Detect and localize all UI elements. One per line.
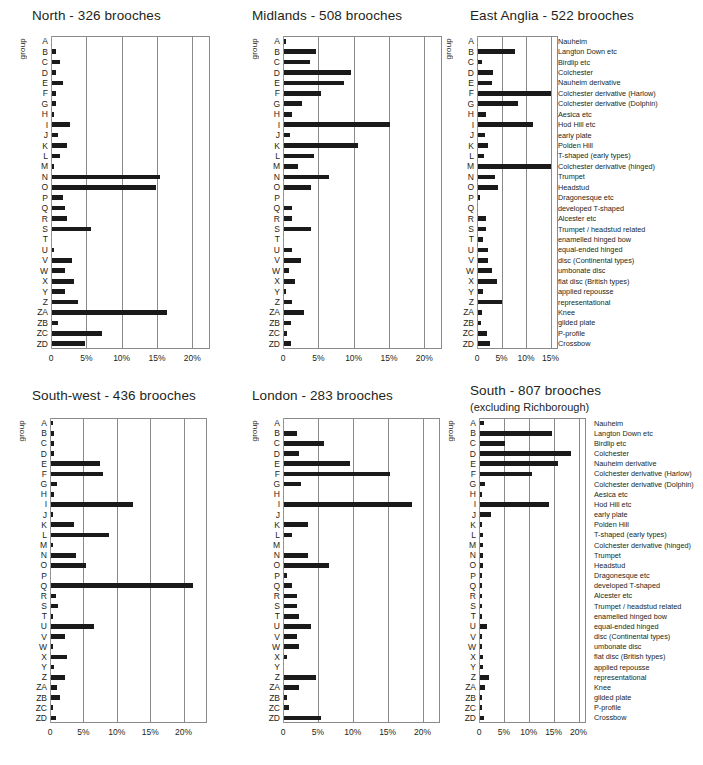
bar <box>52 258 72 263</box>
group-label: P <box>25 572 47 581</box>
key-label: Colchester derivative (Harlow) <box>558 90 656 97</box>
bar <box>284 604 297 609</box>
group-label: I <box>26 121 48 130</box>
key-label: flat disc (British types) <box>594 653 665 660</box>
group-label: B <box>258 429 280 438</box>
bar <box>478 341 490 346</box>
gridline-20% <box>184 418 185 723</box>
key-label: Aesica etc <box>594 491 628 498</box>
bar <box>52 70 56 75</box>
bar <box>51 451 54 456</box>
group-label: R <box>25 592 47 601</box>
group-label: ZC <box>452 329 474 338</box>
group-label: ZC <box>258 704 280 713</box>
group-label: F <box>25 470 47 479</box>
bar <box>478 81 492 86</box>
bar <box>480 655 483 660</box>
group-label: O <box>258 183 280 192</box>
bar <box>284 451 299 456</box>
group-label: K <box>454 521 476 530</box>
bar <box>284 206 292 211</box>
bar <box>284 101 302 106</box>
bar <box>284 70 351 75</box>
bar <box>52 101 56 106</box>
x-tick-label: 10% <box>105 353 139 363</box>
bar <box>284 675 316 680</box>
bar <box>480 573 482 578</box>
group-label: X <box>454 653 476 662</box>
key-label: Birdlip etc <box>594 440 626 447</box>
group-label: Q <box>258 204 280 213</box>
bar <box>478 289 483 294</box>
x-tick-label: 5% <box>301 353 335 363</box>
key-label: gilded plate <box>594 694 631 701</box>
group-label: J <box>454 511 476 520</box>
bar <box>284 185 311 190</box>
gridline-10% <box>117 418 118 723</box>
group-label: H <box>258 490 280 499</box>
bar <box>51 421 53 426</box>
group-label: A <box>25 419 47 428</box>
key-label: Colchester derivative (Harlow) <box>594 470 692 477</box>
key-label: enamelled hinged bow <box>558 236 631 243</box>
key-label: developed T-shaped <box>558 205 624 212</box>
bar <box>480 441 505 446</box>
chart-title: East Anglia - 522 brooches <box>470 8 634 23</box>
group-label: R <box>258 592 280 601</box>
bar <box>284 60 310 65</box>
key-label: disc (Continental types) <box>594 633 670 640</box>
group-label: ZD <box>258 714 280 723</box>
group-label: ZB <box>258 319 280 328</box>
group-label: O <box>26 183 48 192</box>
group-label: K <box>258 521 280 530</box>
bar <box>51 482 57 487</box>
key-label: P-profile <box>558 330 585 337</box>
group-label: Q <box>452 204 474 213</box>
group-label: Z <box>452 298 474 307</box>
group-label: W <box>26 267 48 276</box>
bar <box>52 49 56 54</box>
group-label: M <box>258 541 280 550</box>
group-label: E <box>452 79 474 88</box>
bar <box>51 502 133 507</box>
bar <box>51 716 56 721</box>
bar <box>478 258 488 263</box>
group-label: Y <box>25 663 47 672</box>
group-label: E <box>26 79 48 88</box>
bar <box>480 492 482 497</box>
bar <box>52 310 167 315</box>
bar <box>284 331 287 336</box>
group-label: M <box>258 162 280 171</box>
bar <box>51 624 94 629</box>
key-label: Langton Down etc <box>594 430 653 437</box>
key-label: Nauheim <box>594 420 623 427</box>
bar <box>284 563 329 568</box>
bar <box>52 248 54 253</box>
group-label: ZA <box>452 308 474 317</box>
group-label: T <box>25 612 47 621</box>
key-label: Colchester derivative (hinged) <box>558 163 655 170</box>
bar <box>480 665 483 670</box>
bar <box>52 289 65 294</box>
bar <box>51 492 54 497</box>
bar <box>52 227 91 232</box>
bar <box>480 614 482 619</box>
x-tick-label: 15% <box>372 353 406 363</box>
bar <box>480 512 491 517</box>
group-label: K <box>452 142 474 151</box>
group-label: W <box>258 267 280 276</box>
key-label: Crossbow <box>594 714 626 721</box>
group-label: W <box>25 643 47 652</box>
bar <box>480 502 549 507</box>
group-label: T <box>454 612 476 621</box>
group-label: L <box>258 531 280 540</box>
key-label: Nauheim derivative <box>558 79 620 86</box>
bar <box>284 112 292 117</box>
group-label: E <box>258 79 280 88</box>
group-label: X <box>258 277 280 286</box>
bar <box>478 331 487 336</box>
bar <box>51 543 53 548</box>
bar <box>52 185 156 190</box>
bar <box>478 321 481 326</box>
group-label: M <box>26 162 48 171</box>
